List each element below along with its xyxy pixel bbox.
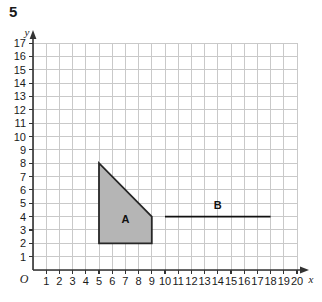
x-tick-label: 18 <box>264 275 276 287</box>
y-tick-label: 3 <box>20 224 26 236</box>
x-tick-label: 8 <box>136 275 142 287</box>
x-tick-label: 16 <box>238 275 250 287</box>
x-tick-label: 19 <box>278 275 290 287</box>
shape-label-a: A <box>121 213 129 225</box>
x-tick-label: 11 <box>172 275 183 287</box>
origin-label: O <box>20 272 29 286</box>
x-tick-label: 17 <box>251 275 263 287</box>
x-tick-label: 14 <box>212 275 224 287</box>
y-tick-label: 1 <box>20 251 26 263</box>
shape-label-b: B <box>214 199 222 211</box>
x-tick-label: 7 <box>122 275 128 287</box>
x-tick-label: 3 <box>70 275 76 287</box>
x-axis-tick-labels: 1234567891011121314151617181920 <box>43 275 303 287</box>
x-tick-label: 1 <box>43 275 49 287</box>
y-tick-label: 13 <box>14 90 26 102</box>
x-axis-label: x <box>308 273 314 285</box>
y-tick-label: 10 <box>14 131 26 143</box>
coordinate-grid-figure: AB 1234567891011121314151617181920 12345… <box>0 0 322 302</box>
y-tick-label: 9 <box>20 144 26 156</box>
y-tick-label: 2 <box>20 237 26 249</box>
x-tick-label: 9 <box>149 275 155 287</box>
x-tick-label: 2 <box>56 275 62 287</box>
y-tick-label: 4 <box>20 211 26 223</box>
x-tick-label: 10 <box>159 275 171 287</box>
y-tick-label: 11 <box>15 117 26 129</box>
y-axis-label: y <box>24 26 30 38</box>
x-tick-label: 20 <box>291 275 303 287</box>
y-tick-label: 17 <box>14 37 26 49</box>
x-tick-label: 6 <box>109 275 115 287</box>
grid-vertical-lines <box>33 43 297 270</box>
graph-svg: AB 1234567891011121314151617181920 12345… <box>0 0 322 302</box>
y-tick-label: 7 <box>20 171 26 183</box>
x-tick-label: 15 <box>225 275 237 287</box>
y-tick-label: 8 <box>20 157 26 169</box>
y-tick-label: 15 <box>14 64 26 76</box>
x-tick-label: 12 <box>185 275 197 287</box>
y-tick-label: 6 <box>20 184 26 196</box>
y-tick-label: 12 <box>14 104 26 116</box>
y-axis-tick-labels: 1234567891011121314151617 <box>14 37 26 263</box>
y-tick-label: 5 <box>20 197 26 209</box>
x-tick-label: 5 <box>96 275 102 287</box>
y-tick-label: 14 <box>14 77 26 89</box>
y-tick-label: 16 <box>14 50 26 62</box>
x-tick-label: 13 <box>198 275 210 287</box>
x-tick-label: 4 <box>83 275 89 287</box>
